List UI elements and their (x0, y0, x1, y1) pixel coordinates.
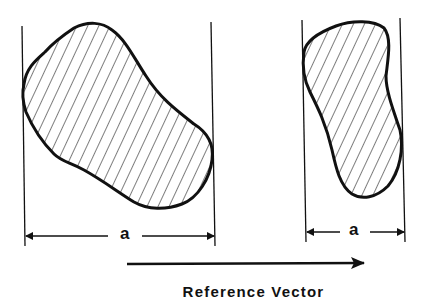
left-boundary-line-left (22, 26, 25, 246)
left-particle-shape (23, 23, 213, 208)
right-particle-shape (303, 22, 401, 198)
left-boundary-line-right (211, 22, 215, 246)
left-dimension-label: a (118, 226, 131, 242)
diagram-canvas (0, 0, 427, 307)
left-shape-group (22, 22, 215, 246)
right-dimension-label: a (347, 222, 360, 238)
reference-vector-caption: Reference Vector (0, 283, 427, 300)
reference-vector-arrow (127, 263, 364, 264)
right-shape-group (302, 18, 405, 242)
